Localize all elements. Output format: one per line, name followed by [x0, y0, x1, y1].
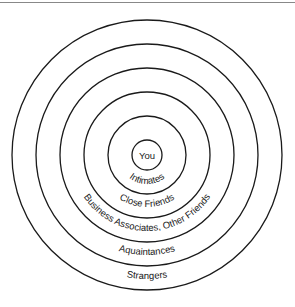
- label-you: You: [139, 150, 155, 161]
- label-strangers: Strangers: [126, 268, 168, 281]
- label-aquaintances: Aquaintances: [118, 242, 176, 257]
- label-intimates: Intimates: [128, 170, 166, 186]
- concentric-circles-diagram: You Intimates Close Friends Business Ass…: [0, 0, 295, 307]
